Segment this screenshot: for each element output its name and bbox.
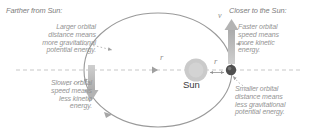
orbit-direction-arrowhead-icon (104, 112, 112, 118)
text-line: less kinetic (0, 95, 92, 103)
text-line: energy. (238, 46, 317, 54)
velocity-arrow-right-icon (225, 19, 239, 64)
planet-dot-highlight (228, 67, 232, 71)
radius-label-left: r (160, 52, 163, 62)
left-heading: Farther from Sun: (6, 7, 62, 15)
text-line: potential energy. (0, 46, 96, 54)
sun-label: Sun (183, 79, 200, 90)
planet-dot-icon (226, 65, 236, 75)
radius-right-arrow-right (221, 71, 224, 74)
orbit-graphics (0, 0, 317, 139)
text-line: speed means (0, 87, 92, 95)
right-upper-text-block: Faster orbital speed means more kinetic … (238, 23, 317, 54)
text-line: potential energy. (235, 108, 317, 116)
left-upper-text-block: Larger orbital distance means more gravi… (0, 23, 99, 54)
text-line: energy. (0, 102, 92, 110)
radius-right-arrow-left (210, 71, 213, 74)
velocity-label-left: v (88, 95, 92, 104)
right-heading: Closer to the Sun: (229, 7, 286, 15)
text-line: Larger orbital (0, 23, 96, 31)
text-line: less gravitational (235, 101, 317, 109)
sun-inner-glow (189, 63, 204, 78)
text-line: more gravitational (0, 39, 96, 47)
text-line: distance means (0, 31, 96, 39)
text-line: Smaller orbital (235, 85, 317, 93)
text-line: Slower orbital (0, 79, 92, 87)
text-line: speed means (238, 31, 317, 39)
left-lower-text-block: Slower orbital speed means less kinetic … (0, 79, 95, 110)
radius-left-arrow (152, 67, 158, 74)
velocity-label-right: v (218, 11, 222, 20)
text-line: distance means (235, 93, 317, 101)
right-lower-text-block: Smaller orbital distance means less grav… (235, 85, 317, 116)
text-line: more kinetic (238, 39, 317, 47)
radius-label-right: r (214, 56, 217, 66)
diagram-canvas: Farther from Sun: Larger orbital distanc… (0, 0, 317, 139)
text-line: Faster orbital (238, 23, 317, 31)
